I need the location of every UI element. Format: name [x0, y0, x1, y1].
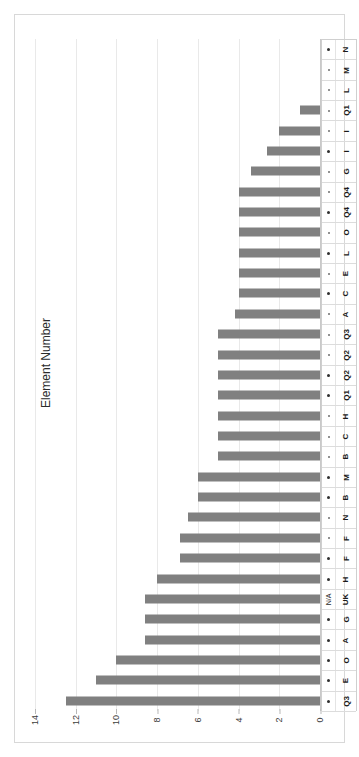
bar-row [35, 283, 320, 303]
category-label-cell: E [336, 671, 356, 690]
dot-marker-icon [327, 659, 330, 662]
bar [267, 146, 320, 155]
category-label: Q2 [341, 370, 350, 381]
row-marker-cell [322, 101, 336, 120]
category-label: N [342, 515, 351, 521]
row-marker-cell [322, 142, 336, 161]
bar [239, 248, 320, 257]
bar [239, 228, 320, 237]
category-label-cell: F [336, 549, 356, 568]
dot-marker-icon [328, 456, 330, 458]
bar [66, 696, 320, 705]
category-label-cell: Q1 [336, 386, 356, 405]
category-row: F [322, 529, 356, 549]
tick-mark-icon [279, 709, 280, 714]
bar [239, 208, 320, 217]
category-row: Q3 [322, 325, 356, 345]
bar-row [35, 344, 320, 364]
category-row: Q4 [322, 183, 356, 203]
dot-marker-icon [328, 273, 330, 275]
bar-row [35, 629, 320, 649]
category-label-table: NMLQ1IIGQ4Q4OLECAQ3Q2Q2Q1HCBMBNFFHN/AUKG… [321, 39, 357, 711]
tick-mark-icon [76, 709, 77, 714]
category-label-cell: UK [336, 590, 356, 609]
bar [198, 493, 320, 502]
category-label: N [342, 47, 351, 53]
category-row: Q3 [322, 692, 356, 712]
bar [239, 269, 320, 278]
dot-marker-icon [328, 537, 330, 539]
category-row: E [322, 264, 356, 284]
dot-marker-icon [328, 89, 330, 91]
dot-marker-icon [327, 394, 330, 397]
category-row: N [322, 508, 356, 528]
category-label: L [341, 251, 350, 256]
category-label-cell: L [336, 81, 356, 100]
dot-marker-icon [327, 374, 330, 377]
dot-marker-icon [327, 618, 330, 621]
x-tick-8: 8 [155, 715, 160, 725]
x-tick-label: 12 [71, 715, 81, 725]
na-marker-label: N/A [325, 594, 332, 606]
row-marker-cell [322, 284, 336, 303]
category-label-cell: Q2 [336, 366, 356, 385]
bar-row [35, 446, 320, 466]
row-marker-cell [322, 325, 336, 344]
category-label: Q4 [341, 187, 350, 198]
bar-row [35, 650, 320, 670]
bar-row [35, 426, 320, 446]
dot-marker-icon [327, 679, 330, 682]
x-tick-10: 10 [111, 715, 121, 725]
bar-row [35, 304, 320, 324]
dot-marker-icon [327, 700, 330, 703]
category-label: O [341, 657, 350, 663]
dot-marker-icon [327, 252, 330, 255]
bar [239, 187, 320, 196]
category-row: O [322, 223, 356, 243]
dot-marker-icon [327, 48, 330, 51]
row-marker-cell [322, 569, 336, 588]
x-tick-6: 6 [195, 715, 200, 725]
bar-row [35, 202, 320, 222]
dot-marker-icon [328, 232, 330, 234]
plot-area [35, 39, 320, 711]
x-tick-0: 0 [317, 715, 322, 725]
category-row: C [322, 284, 356, 304]
category-row: E [322, 671, 356, 691]
bar [198, 472, 320, 481]
dot-marker-icon [328, 171, 330, 173]
dot-marker-icon [327, 476, 330, 479]
dot-marker-icon [327, 639, 330, 642]
bar-row [35, 243, 320, 263]
row-marker-cell [322, 692, 336, 711]
bar-row [35, 161, 320, 181]
row-marker-cell [322, 40, 336, 59]
category-label: G [341, 169, 350, 175]
category-row: H [322, 569, 356, 589]
category-label: Q1 [341, 390, 350, 401]
category-label: Q2 [341, 350, 350, 361]
category-label-cell: Q1 [336, 101, 356, 120]
category-label-cell: Q4 [336, 183, 356, 202]
bar-row [35, 691, 320, 711]
dot-marker-icon [328, 415, 330, 417]
bar-row [35, 487, 320, 507]
row-marker-cell: N/A [322, 590, 336, 609]
category-label-cell: B [336, 447, 356, 466]
category-label-cell: A [336, 630, 356, 649]
category-label-cell: O [336, 223, 356, 242]
row-marker-cell [322, 488, 336, 507]
category-label-cell: O [336, 651, 356, 670]
x-tick-label: 8 [152, 717, 162, 722]
dot-marker-icon [327, 292, 330, 295]
row-marker-cell [322, 427, 336, 446]
category-label-cell: G [336, 162, 356, 181]
category-label-cell: H [336, 569, 356, 588]
x-tick-4: 4 [236, 715, 241, 725]
category-row: F [322, 549, 356, 569]
category-row: G [322, 162, 356, 182]
dot-marker-icon [327, 557, 330, 560]
bar-row [35, 324, 320, 344]
bar [251, 167, 320, 176]
bar [218, 370, 320, 379]
